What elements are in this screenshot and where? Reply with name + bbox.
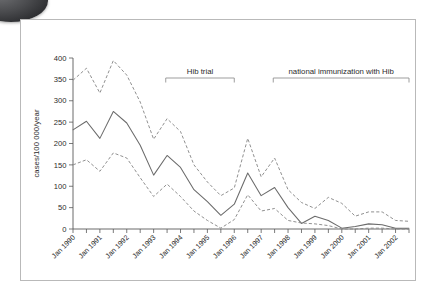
x-axis: Jan 1990Jan 1991Jan 1992Jan 1993Jan 1994… (50, 229, 409, 260)
chart-series (73, 61, 409, 229)
y-tick-label: 0 (62, 225, 66, 234)
annotation-label: Hib trial (187, 67, 214, 76)
figure-root: 050100150200250300350400 Jan 1990Jan 199… (0, 0, 436, 295)
x-tick-label: Jan 1993 (130, 233, 157, 260)
y-tick-label: 250 (54, 118, 67, 127)
annotation-label: national immunization with Hib (288, 67, 394, 76)
y-tick-label: 150 (54, 161, 67, 170)
annotation-bracket (166, 78, 235, 83)
x-tick-label: Jan 1997 (238, 233, 265, 260)
x-tick-label: Jan 1998 (265, 233, 292, 260)
y-tick-label: 200 (54, 139, 67, 148)
chart-annotations: Hib trialnational immunization with Hib (166, 67, 409, 83)
series-line (73, 153, 409, 229)
x-tick-label: Jan 1990 (50, 233, 77, 260)
x-tick-label: Jan 1992 (103, 233, 130, 260)
x-tick-label: Jan 1996 (211, 233, 238, 260)
series-line (73, 111, 409, 228)
x-tick-label: Jan 2002 (372, 233, 399, 260)
x-tick-label: Jan 1991 (77, 233, 104, 260)
y-axis-title: cases/100 000/year (32, 109, 41, 177)
x-tick-label: Jan 2001 (345, 233, 372, 260)
x-tick-label: Jan 1994 (157, 233, 184, 260)
y-tick-label: 50 (58, 203, 66, 212)
x-tick-label: Jan 1995 (184, 233, 211, 260)
x-tick-label: Jan 1999 (292, 233, 319, 260)
x-tick-label: Jan 2000 (318, 233, 345, 260)
annotation-bracket (273, 78, 409, 83)
y-tick-label: 100 (54, 182, 67, 191)
y-axis: 050100150200250300350400 (54, 54, 73, 234)
series-line (73, 61, 409, 222)
y-tick-label: 400 (54, 54, 67, 63)
y-tick-label: 350 (54, 75, 67, 84)
y-tick-label: 300 (54, 96, 67, 105)
y-axis-title-text: cases/100 000/year (32, 109, 41, 177)
line-chart: 050100150200250300350400 Jan 1990Jan 199… (21, 20, 417, 282)
chart-panel: 050100150200250300350400 Jan 1990Jan 199… (20, 19, 416, 281)
